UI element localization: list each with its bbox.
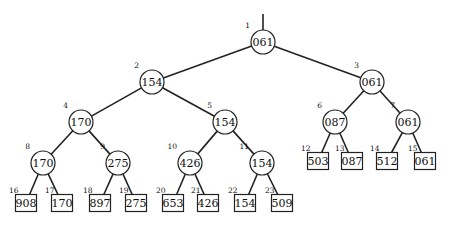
internal-node-4: 1704 xyxy=(63,101,93,134)
node-index: 12 xyxy=(301,144,311,153)
leaf-node-17: 17017 xyxy=(45,186,73,212)
node-index: 20 xyxy=(156,186,166,195)
node-value: 503 xyxy=(308,155,329,168)
tree-nodes: 0611154206131704154508760617170827594261… xyxy=(9,21,436,212)
node-index: 3 xyxy=(354,61,359,70)
edge-11-22 xyxy=(249,174,258,194)
node-value: 061 xyxy=(362,76,383,89)
internal-node-10: 42610 xyxy=(167,142,202,175)
edge-5-10 xyxy=(198,131,217,154)
leaf-node-13: 08713 xyxy=(335,144,363,170)
internal-node-7: 0617 xyxy=(390,101,420,134)
node-index: 21 xyxy=(191,186,201,195)
node-index: 7 xyxy=(390,101,395,110)
node-index: 2 xyxy=(134,61,139,70)
node-value: 154 xyxy=(235,197,256,210)
node-value: 512 xyxy=(377,155,398,168)
internal-node-8: 1708 xyxy=(25,142,55,175)
node-value: 061 xyxy=(398,116,419,129)
node-index: 5 xyxy=(207,101,212,110)
node-value: 170 xyxy=(71,116,92,129)
node-value: 154 xyxy=(252,157,273,170)
node-index: 14 xyxy=(370,144,380,153)
edge-6-12 xyxy=(322,133,330,152)
internal-node-6: 0876 xyxy=(317,101,347,134)
leaf-node-14: 51214 xyxy=(370,144,398,170)
node-index: 22 xyxy=(228,186,238,195)
node-index: 10 xyxy=(167,142,177,151)
node-value: 275 xyxy=(126,197,147,210)
edge-7-14 xyxy=(392,133,403,153)
leaf-node-23: 50923 xyxy=(265,186,293,212)
edge-10-20 xyxy=(177,174,186,194)
node-value: 154 xyxy=(215,116,236,129)
edge-2-4 xyxy=(91,88,141,116)
leaf-node-21: 42621 xyxy=(191,186,219,212)
edge-9-18 xyxy=(104,174,113,195)
edge-8-16 xyxy=(30,174,39,194)
node-index: 4 xyxy=(63,101,68,110)
node-index: 9 xyxy=(100,142,105,151)
node-value: 908 xyxy=(16,197,37,210)
edge-1-3 xyxy=(274,46,360,78)
node-value: 154 xyxy=(142,76,163,89)
node-index: 18 xyxy=(83,186,93,195)
node-value: 061 xyxy=(415,155,436,168)
node-value: 509 xyxy=(272,197,293,210)
node-value: 275 xyxy=(108,157,129,170)
edge-1-2 xyxy=(163,46,251,78)
leaf-node-15: 06115 xyxy=(408,144,436,170)
internal-node-11: 15411 xyxy=(239,142,274,175)
node-value: 897 xyxy=(90,197,111,210)
node-index: 13 xyxy=(335,144,345,153)
node-value: 653 xyxy=(163,197,184,210)
tournament-tree-diagram: 0611154206131704154508760617170827594261… xyxy=(0,0,453,226)
node-value: 426 xyxy=(180,157,201,170)
node-value: 061 xyxy=(253,36,274,49)
internal-node-5: 1545 xyxy=(207,101,237,134)
node-index: 17 xyxy=(45,186,55,195)
node-index: 23 xyxy=(265,186,275,195)
internal-node-1: 0611 xyxy=(245,21,275,54)
edge-4-8 xyxy=(51,131,73,154)
node-index: 19 xyxy=(119,186,129,195)
node-index: 16 xyxy=(9,186,19,195)
node-value: 087 xyxy=(342,155,363,168)
node-value: 426 xyxy=(198,197,219,210)
node-value: 170 xyxy=(52,197,73,210)
internal-node-9: 2759 xyxy=(100,142,130,175)
leaf-node-19: 27519 xyxy=(119,186,147,212)
node-index: 15 xyxy=(408,144,418,153)
node-index: 6 xyxy=(317,101,322,110)
node-value: 170 xyxy=(33,157,54,170)
edge-3-6 xyxy=(343,91,364,113)
node-value: 087 xyxy=(325,116,346,129)
node-index: 1 xyxy=(245,21,250,30)
node-index: 11 xyxy=(239,142,249,151)
node-index: 8 xyxy=(25,142,30,151)
